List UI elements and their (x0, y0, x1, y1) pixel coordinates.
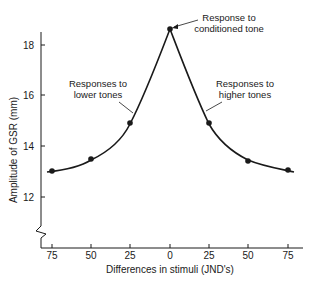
y-tick-label: 16 (23, 90, 35, 101)
data-point (49, 168, 55, 174)
data-point (88, 156, 94, 162)
x-tick-labels: 75 50 25 0 25 50 75 (46, 250, 294, 261)
data-point (127, 120, 133, 126)
data-point (245, 158, 251, 164)
svg-text:conditioned tone: conditioned tone (194, 23, 264, 34)
svg-text:Response to: Response to (202, 12, 255, 23)
y-tick-labels: 18 16 14 12 (23, 40, 35, 203)
x-tick-label: 25 (203, 250, 215, 261)
x-axis-title: Differences in stimuli (JND's) (106, 264, 234, 275)
y-tick-label: 14 (23, 141, 35, 152)
x-tick-label: 50 (242, 250, 254, 261)
annotation-lower: Responses to lower tones (69, 78, 133, 113)
svg-text:Responses to: Responses to (69, 78, 127, 89)
y-axis (36, 32, 46, 248)
data-point (167, 26, 173, 32)
y-axis-title: Amplitude of GSR (mm) (8, 97, 19, 203)
annotation-higher: Responses to higher tones (206, 78, 274, 111)
x-tick-label: 0 (167, 250, 173, 261)
gsr-curve (47, 29, 294, 172)
svg-text:higher tones: higher tones (219, 89, 272, 100)
data-point (206, 120, 212, 126)
data-points (49, 26, 291, 174)
annotation-conditioned: Response to conditioned tone (172, 12, 264, 34)
svg-text:lower tones: lower tones (74, 89, 123, 100)
x-axis (41, 244, 303, 248)
x-tick-label: 75 (282, 250, 294, 261)
x-tick-label: 50 (85, 250, 97, 261)
x-tick-label: 75 (46, 250, 58, 261)
x-tick-label: 25 (124, 250, 136, 261)
svg-text:Responses to: Responses to (216, 78, 274, 89)
y-tick-label: 18 (23, 40, 35, 51)
y-tick-label: 12 (23, 192, 35, 203)
gsr-generalization-chart: 18 16 14 12 Amplitude of GSR (mm) 75 50 … (0, 0, 315, 281)
data-point (285, 167, 291, 173)
